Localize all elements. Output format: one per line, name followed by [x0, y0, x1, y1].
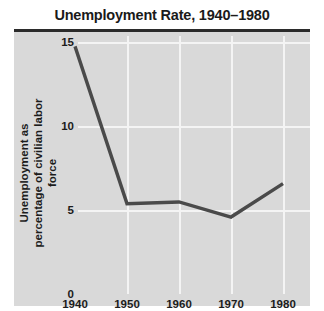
plot-panel — [14, 32, 310, 306]
chart-figure: Unemployment Rate, 1940–1980 15 10 5 0 — [0, 0, 324, 311]
chart-title-band: Unemployment Rate, 1940–1980 — [0, 0, 324, 30]
page-title: Unemployment Rate, 1940–1980 — [54, 7, 269, 23]
